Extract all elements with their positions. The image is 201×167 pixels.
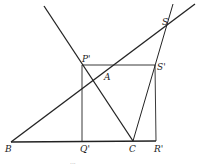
line-BR [11, 141, 156, 142]
geometry-diagram: BQ'CR'P'S'AS ... [0, 0, 201, 167]
caption-fragment: ... [70, 158, 76, 165]
point-label-s: S [162, 17, 168, 27]
point-label-r: R' [153, 144, 163, 154]
point-label-a: A [103, 72, 111, 82]
line-PC [44, 6, 133, 141]
point-label-p: P' [81, 54, 91, 64]
line-S1R [155, 65, 156, 141]
point-label-s1: S' [157, 62, 166, 72]
point-label-c: C [129, 144, 136, 154]
point-label-b: B [4, 144, 12, 154]
point-label-q: Q' [80, 144, 90, 154]
